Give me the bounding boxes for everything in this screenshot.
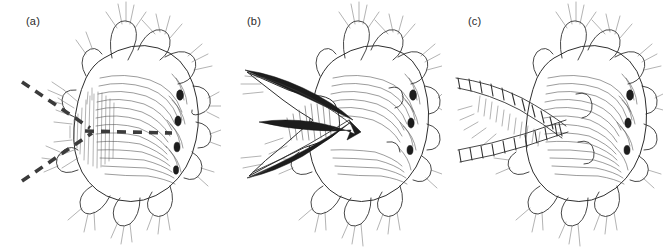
worm-body-group-a — [42, 2, 221, 244]
worm-body-group-c — [494, 2, 663, 246]
panel-a-illustration — [0, 0, 221, 251]
panel-b: (b) — [221, 0, 442, 251]
panel-a: (a) — [0, 0, 221, 251]
panel-c: (c) — [442, 0, 663, 251]
panel-c-illustration — [442, 0, 663, 251]
panel-b-illustration — [221, 0, 442, 251]
figure-root: (a) — [0, 0, 663, 251]
